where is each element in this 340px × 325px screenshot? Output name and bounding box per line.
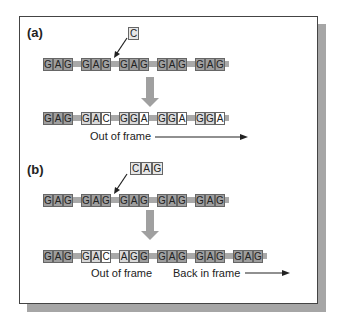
panel-b-frame-arrow-icon [0,0,340,325]
